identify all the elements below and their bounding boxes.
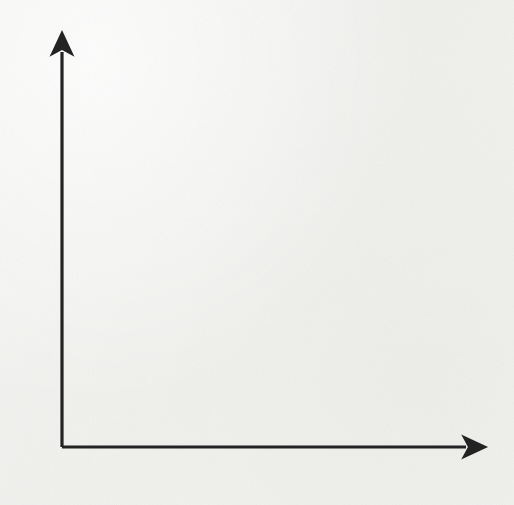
scatter-plot-figure — [0, 0, 514, 505]
coordinate-plane-svg — [0, 0, 514, 505]
